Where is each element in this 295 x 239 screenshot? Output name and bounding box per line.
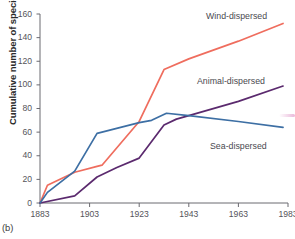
y-tick-label: 80 <box>10 103 32 113</box>
y-tick-label: 160 <box>10 9 32 19</box>
axis-lines <box>40 14 288 203</box>
line-chart-plot <box>0 0 295 239</box>
x-tick-label: 1943 <box>172 209 206 219</box>
series-line-wind-dispersed <box>40 23 283 203</box>
y-tick-label: 20 <box>10 174 32 184</box>
x-tick-label: 1923 <box>122 209 156 219</box>
x-tick-label: 1983 <box>271 209 295 219</box>
y-tick-label: 140 <box>10 32 32 42</box>
x-tick-label: 1903 <box>73 209 107 219</box>
series-label-wind: Wind-dispersed <box>206 11 267 21</box>
series-lines <box>40 23 283 203</box>
series-label-sea: Sea-dispersed <box>210 141 267 151</box>
edge-line-artifact <box>279 114 295 117</box>
chart-figure: Cumulative number of species 02040608010… <box>0 0 295 239</box>
y-tick-label: 100 <box>10 79 32 89</box>
tick-marks <box>37 14 289 207</box>
y-tick-label: 40 <box>10 150 32 160</box>
series-line-sea-dispersed <box>40 113 283 203</box>
x-tick-label: 1963 <box>221 209 255 219</box>
series-label-animal: Animal-dispersed <box>197 76 265 86</box>
panel-label: (b) <box>2 222 13 233</box>
y-tick-label: 120 <box>10 56 32 66</box>
y-tick-label: 0 <box>10 198 32 208</box>
x-tick-label: 1883 <box>23 209 57 219</box>
y-tick-label: 60 <box>10 127 32 137</box>
